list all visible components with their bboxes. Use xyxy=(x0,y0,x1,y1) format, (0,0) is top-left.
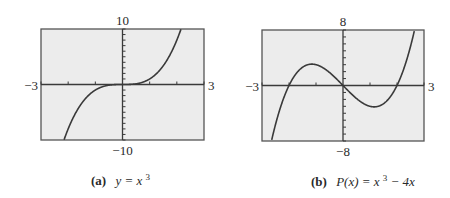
panel-a: 10 −10 −3 3 (a) y = x 3 xyxy=(24,13,214,188)
y-max-label: 10 xyxy=(116,13,129,28)
x-max-label: 3 xyxy=(428,79,435,94)
y-min-label: −10 xyxy=(112,143,132,158)
caption-superscript: 3 xyxy=(383,173,388,183)
caption: (b) P(x) = x 3 − 4x xyxy=(311,169,415,189)
y-max-label: 8 xyxy=(340,14,347,29)
caption-expression: P(x) = x xyxy=(335,174,380,189)
x-max-label: 3 xyxy=(208,78,215,93)
caption-prefix: (b) xyxy=(311,174,327,189)
x-min-label: −3 xyxy=(245,79,259,94)
figure: 10 −10 −3 3 (a) y = x 3 8 −8 −3 3 (b) P(… xyxy=(0,0,450,198)
panel-b: 8 −8 −3 3 (b) P(x) = x 3 − 4x xyxy=(245,14,434,189)
caption-prefix: (a) xyxy=(91,173,106,188)
caption: (a) y = x 3 xyxy=(91,172,150,188)
caption-expression: y = x xyxy=(113,173,142,188)
caption-superscript: 3 xyxy=(145,172,150,182)
x-min-label: −3 xyxy=(24,78,38,93)
y-min-label: −8 xyxy=(336,144,350,159)
caption-tail: − 4x xyxy=(391,174,416,189)
